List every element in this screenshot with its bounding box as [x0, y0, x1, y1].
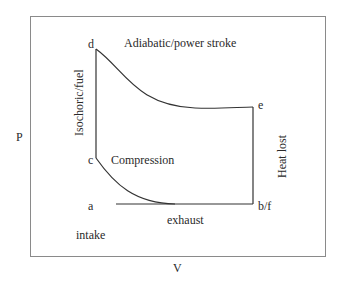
power-stroke-curve-d-e: [96, 49, 253, 108]
intake-label: intake: [76, 228, 105, 242]
point-bf: b/f: [258, 199, 271, 213]
isochoric-label: Isochoric/fuel: [72, 69, 86, 136]
exhaust-label: exhaust: [167, 213, 204, 227]
point-e: e: [258, 98, 263, 112]
y-axis-label: P: [16, 130, 23, 144]
power-stroke-label: Adiabatic/power stroke: [124, 36, 236, 50]
point-d: d: [88, 37, 94, 51]
compression-label: Compression: [111, 153, 174, 167]
point-c: c: [88, 153, 93, 167]
pv-diagram: P V d c a e b/f Adiabatic/power stroke C…: [0, 0, 340, 285]
point-a: a: [88, 199, 94, 213]
heat-lost-label: Heat lost: [275, 134, 289, 178]
x-axis-label: V: [173, 261, 182, 275]
